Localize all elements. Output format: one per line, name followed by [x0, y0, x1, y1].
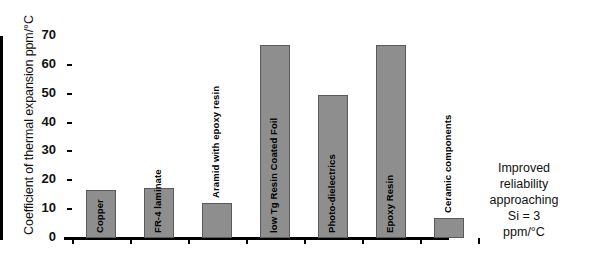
bar: [202, 203, 232, 238]
x-tick-mark: [130, 238, 132, 244]
annotation-line-3: approaching: [468, 192, 580, 208]
bar-chart-figure: Coefficient of thermal expansion ppm/°C …: [0, 0, 589, 268]
bar-category-label: Aramid with epoxy resin: [210, 86, 221, 198]
y-tick-label: 20: [26, 171, 56, 186]
y-tick-label: 40: [26, 114, 56, 129]
x-tick-mark: [72, 238, 74, 244]
bar-category-label: Ceramic components: [442, 114, 453, 212]
annotation-line-1: Improved: [468, 160, 580, 176]
y-tick-label: 30: [26, 142, 56, 157]
bar-category-label: FR-4 laminate: [152, 169, 163, 233]
annotation-line-4: Si = 3: [468, 208, 580, 224]
x-tick-mark: [188, 238, 190, 244]
y-tick-label: 60: [26, 56, 56, 71]
bar-category-label: Epoxy Resin: [384, 175, 395, 233]
y-axis-line: [0, 36, 3, 240]
x-tick-mark: [420, 238, 422, 244]
bar-category-label: Photo-dielectrics: [326, 154, 337, 233]
annotation-line-2: reliability: [468, 176, 580, 192]
y-tick-label: 10: [26, 200, 56, 215]
x-tick-mark: [304, 238, 306, 244]
chart-annotation: Improved reliability approaching Si = 3 …: [468, 160, 580, 240]
bar-category-label: Copper: [94, 199, 105, 233]
y-tick-label: 70: [26, 27, 56, 42]
bar: [434, 218, 464, 238]
y-tick-label: 0: [26, 229, 56, 244]
x-tick-mark: [362, 238, 364, 244]
annotation-line-5: ppm/°C: [468, 224, 580, 240]
y-tick-label: 50: [26, 85, 56, 100]
bar-category-label: low Tg Resin Coated Foil: [268, 118, 279, 233]
x-tick-mark: [246, 238, 248, 244]
